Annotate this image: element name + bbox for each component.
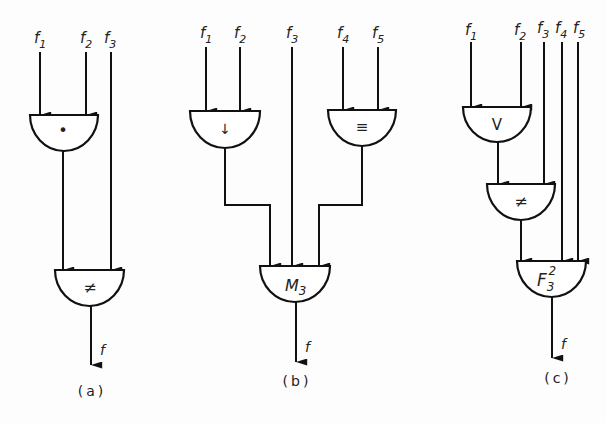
output-label: f xyxy=(561,336,568,352)
caption-b: (b) xyxy=(283,373,312,389)
input-label-f2: f2 xyxy=(80,29,92,51)
input-label-f3: f3 xyxy=(537,19,549,41)
diagram-a: f1 f2 f3 • ≠ f (a) xyxy=(30,29,124,399)
not-equal-icon: ≠ xyxy=(514,192,527,211)
wire-nor-out xyxy=(225,148,270,266)
or-symbol-icon: V xyxy=(492,116,503,134)
output-label: f xyxy=(305,339,312,355)
input-label-f4: f4 xyxy=(337,24,349,46)
input-label-f5: f5 xyxy=(573,19,585,41)
output-label: f xyxy=(100,342,107,358)
equivalence-icon: ≡ xyxy=(356,118,369,136)
down-arrow-icon: ↓ xyxy=(219,121,231,137)
logic-diagram-figure: f1 f2 f3 • ≠ f (a) f1 f2 f3 f4 f5 ↓ xyxy=(0,0,606,423)
diagram-c: f1 f2 f3 f4 f5 V ≠ F32 f (c) xyxy=(463,19,586,386)
input-label-f1: f1 xyxy=(34,29,46,51)
input-label-f2: f2 xyxy=(514,21,526,43)
input-label-f1: f1 xyxy=(465,21,477,43)
input-label-f4: f4 xyxy=(555,19,567,41)
input-label-f5: f5 xyxy=(372,24,384,46)
input-label-f1: f1 xyxy=(200,24,212,46)
not-equal-icon: ≠ xyxy=(83,278,96,297)
and-dot-icon: • xyxy=(58,121,67,140)
diagram-b: f1 f2 f3 f4 f5 ↓ ≡ M3 f (b) xyxy=(190,24,396,389)
caption-c: (c) xyxy=(544,370,572,386)
input-label-f2: f2 xyxy=(234,24,246,46)
caption-a: (a) xyxy=(78,383,107,399)
input-label-f3: f3 xyxy=(286,24,298,46)
wire-equiv-out xyxy=(319,146,362,266)
input-label-f3: f3 xyxy=(104,29,116,51)
